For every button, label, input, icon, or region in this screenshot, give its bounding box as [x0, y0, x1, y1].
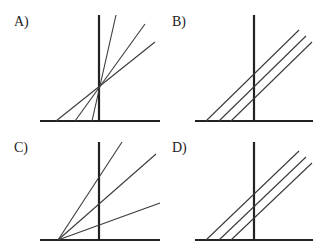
panel-d [195, 142, 313, 240]
line-1 [92, 15, 116, 121]
panel-b [195, 15, 313, 121]
line-3 [231, 42, 312, 121]
line-2 [219, 157, 306, 240]
line-3 [58, 203, 160, 240]
line-1 [206, 30, 299, 121]
line-3 [231, 163, 312, 240]
panel-d-label: D) [172, 140, 187, 156]
line-1 [206, 151, 299, 240]
line-1 [58, 142, 122, 240]
line-2 [219, 36, 306, 121]
panel-c [40, 142, 160, 240]
line-2 [75, 24, 145, 121]
panel-a-label: A) [14, 14, 29, 30]
panel-c-label: C) [14, 140, 28, 156]
diagram-canvas [0, 0, 330, 245]
panel-b-label: B) [172, 14, 186, 30]
line-2 [58, 154, 156, 240]
line-3 [56, 42, 155, 121]
panel-a [40, 15, 160, 121]
